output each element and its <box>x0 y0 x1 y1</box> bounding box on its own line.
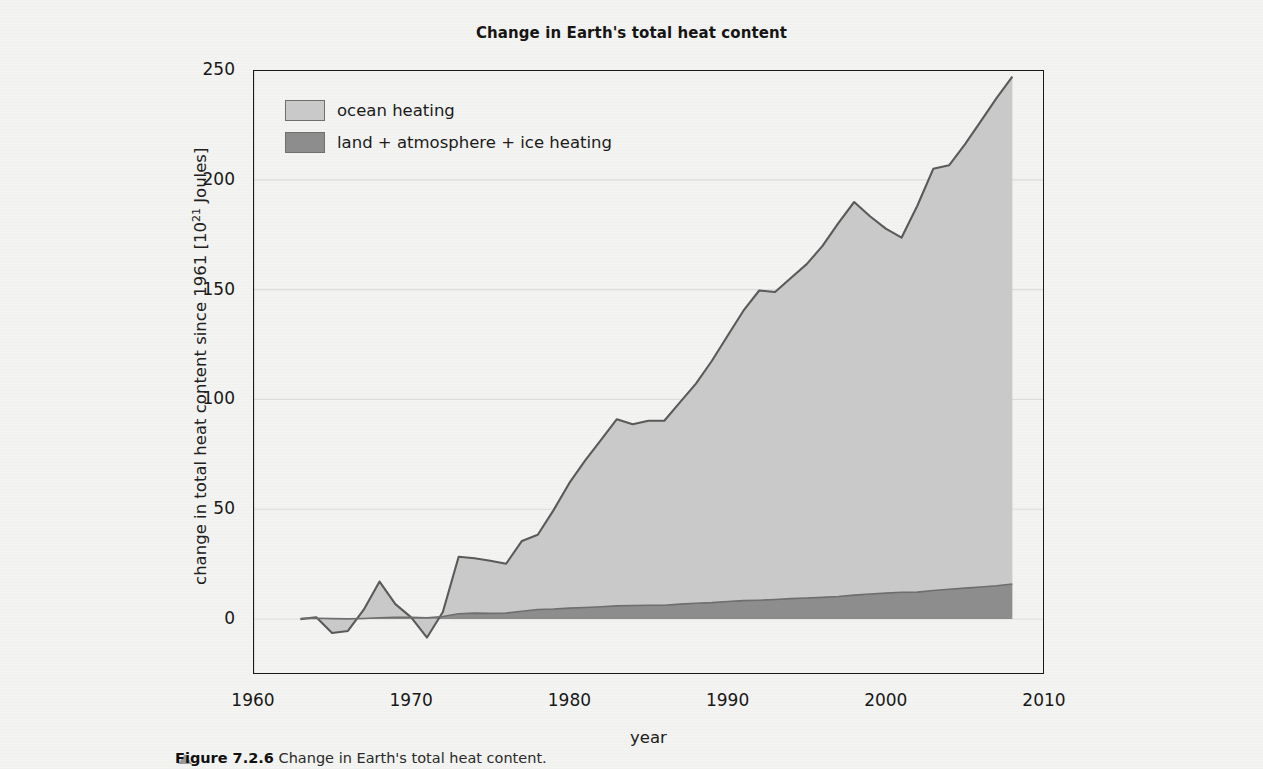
y-axis-label-exponent: 21 <box>190 208 203 222</box>
x-tick-label-2000: 2000 <box>841 690 931 710</box>
chart-title: Change in Earth's total heat content <box>0 24 1263 42</box>
y-tick-label-150: 150 <box>175 279 235 299</box>
y-tick-label-200: 200 <box>175 169 235 189</box>
x-tick-label-1990: 1990 <box>683 690 773 710</box>
x-tick-label-1960: 1960 <box>208 690 298 710</box>
y-tick-label-100: 100 <box>175 388 235 408</box>
legend-swatch-land-atmosphere-ice-heating <box>285 132 325 153</box>
y-tick-label-0: 0 <box>175 608 235 628</box>
x-tick-label-2010: 2010 <box>999 690 1089 710</box>
figure-caption-label: Figure 7.2.6 <box>175 750 274 766</box>
legend-label-land-atmosphere-ice-heating: land + atmosphere + ice heating <box>337 133 612 152</box>
x-tick-label-1970: 1970 <box>366 690 456 710</box>
y-axis-label: change in total heat content since 1961 … <box>190 64 211 668</box>
legend-item-land-atmosphere-ice-heating: land + atmosphere + ice heating <box>285 132 612 153</box>
legend-label-ocean-heating: ocean heating <box>337 101 455 120</box>
figure-caption-text: Change in Earth's total heat content. <box>279 750 547 766</box>
chart-legend: ocean heating land + atmosphere + ice he… <box>285 100 612 164</box>
legend-swatch-ocean-heating <box>285 100 325 121</box>
x-tick-label-1980: 1980 <box>524 690 614 710</box>
figure-caption: Figure 7.2.6 Change in Earth's total hea… <box>175 750 1175 766</box>
y-tick-label-250: 250 <box>175 59 235 79</box>
legend-item-ocean-heating: ocean heating <box>285 100 612 121</box>
y-tick-label-50: 50 <box>175 498 235 518</box>
figure-container: Change in Earth's total heat content cha… <box>0 0 1263 769</box>
x-axis-label: year <box>253 728 1044 747</box>
